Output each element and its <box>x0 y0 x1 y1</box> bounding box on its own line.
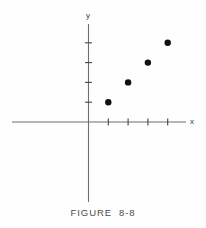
data-point <box>165 40 171 46</box>
figure-caption: FIGURE 8-8 <box>0 207 206 218</box>
y-axis-label: y <box>86 12 90 20</box>
data-point <box>125 79 131 85</box>
x-axis-label: x <box>190 118 194 126</box>
scatter-plot <box>0 0 206 206</box>
data-point <box>145 59 151 65</box>
data-point <box>105 99 111 105</box>
data-points <box>105 40 171 106</box>
figure-container: y x FIGURE 8-8 <box>0 0 206 228</box>
